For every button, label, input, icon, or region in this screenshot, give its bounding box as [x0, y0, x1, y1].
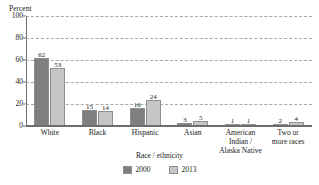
category-label: Two ormore races — [264, 128, 312, 146]
bar-chart: Percent 020406080100 625315141624351124 … — [0, 0, 319, 185]
legend-swatch — [123, 166, 132, 174]
category-label: White — [26, 128, 74, 137]
plot-area: 020406080100 625315141624351124 — [26, 16, 312, 126]
bar-value-label: 16 — [134, 101, 141, 109]
bar-group: 35 — [175, 16, 210, 126]
category-label-line: White — [26, 128, 74, 137]
category-label-line: Two or — [264, 128, 312, 137]
y-tick-label: 100 — [12, 12, 23, 20]
bar-group: 11 — [223, 16, 258, 126]
bar-value-label: 4 — [294, 115, 298, 123]
bar-value-label: 5 — [199, 114, 203, 122]
y-tick-label: 0 — [19, 122, 23, 130]
category-label-line: Hispanic — [121, 128, 169, 137]
bar-group: 1514 — [80, 16, 115, 126]
y-tick-label: 20 — [16, 100, 24, 108]
category-label: Black — [74, 128, 122, 137]
bar-value-label: 3 — [183, 116, 187, 124]
category-labels: WhiteBlackHispanicAsianAmerican Indian /… — [26, 128, 312, 152]
bar-value-label: 62 — [38, 51, 45, 59]
bar: 16 — [130, 108, 145, 126]
bar: 62 — [34, 58, 49, 126]
bar-value-label: 53 — [54, 61, 61, 69]
x-axis-title: Race / ethnicity — [0, 151, 319, 160]
legend-item: 2000 — [123, 165, 151, 174]
y-tick-label: 80 — [16, 34, 24, 42]
bar: 24 — [146, 100, 161, 126]
gridline — [26, 126, 312, 127]
bar-value-label: 14 — [102, 104, 109, 112]
legend-label: 2013 — [182, 165, 197, 174]
bars-layer: 625315141624351124 — [26, 16, 312, 126]
bar-value-label: 15 — [86, 103, 93, 111]
bar: 53 — [50, 68, 65, 126]
category-label: Hispanic — [121, 128, 169, 137]
bar-group: 1624 — [128, 16, 163, 126]
chart-legend: 20002013 — [0, 165, 319, 174]
y-tick-label: 40 — [16, 78, 24, 86]
category-label: Asian — [169, 128, 217, 137]
bar-group: 24 — [271, 16, 306, 126]
category-label-line: Asian — [169, 128, 217, 137]
category-label-line: Black — [74, 128, 122, 137]
legend-item: 2013 — [169, 165, 197, 174]
bar-value-label: 2 — [278, 117, 282, 125]
legend-swatch — [169, 166, 178, 174]
bar-value-label: 1 — [247, 117, 251, 125]
category-label-line: American Indian / — [217, 128, 265, 146]
x-axis-line — [26, 125, 312, 126]
y-tick-label: 60 — [16, 56, 24, 64]
category-label-line: more races — [264, 137, 312, 146]
bar: 14 — [98, 111, 113, 126]
bar: 15 — [82, 110, 97, 127]
bar-value-label: 24 — [150, 93, 157, 101]
legend-label: 2000 — [136, 165, 151, 174]
bar-group: 6253 — [32, 16, 67, 126]
bar-value-label: 1 — [231, 117, 235, 125]
